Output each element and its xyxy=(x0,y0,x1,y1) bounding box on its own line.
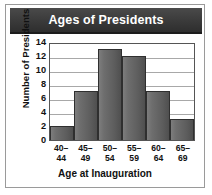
plot-area xyxy=(49,43,195,141)
bar xyxy=(50,126,74,140)
bar xyxy=(146,91,170,140)
y-axis-tick-labels: 02468101214 xyxy=(29,43,46,141)
x-axis-tick-label: 55–59 xyxy=(122,144,146,163)
x-axis-tick-label: 65–69 xyxy=(171,144,195,163)
y-axis-tick-label: 0 xyxy=(30,136,46,145)
y-axis-tick-label: 12 xyxy=(30,52,46,61)
bar-series xyxy=(50,44,194,140)
x-axis-tick-label-line: 69 xyxy=(171,154,195,164)
x-axis-tick-label: 45–49 xyxy=(73,144,97,163)
x-axis-tick-label-line: 59 xyxy=(122,154,146,164)
y-axis-tick-label: 4 xyxy=(30,108,46,117)
chart-card: Ages of Presidents Number of Presidents … xyxy=(5,4,205,188)
x-axis-tick-label: 40–44 xyxy=(49,144,73,163)
chart-title-bar: Ages of Presidents xyxy=(10,8,202,34)
bar xyxy=(74,91,98,140)
bar xyxy=(122,56,146,140)
x-axis-title: Age at Inauguration xyxy=(6,168,204,179)
x-axis-tick-label-line: 44 xyxy=(49,154,73,164)
chart-title: Ages of Presidents xyxy=(48,13,163,27)
x-axis-tick-label: 50–54 xyxy=(98,144,122,163)
x-axis-tick-labels: 40–4445–4950–5455–5960–6465–69 xyxy=(49,144,195,163)
x-axis-tick-label-line: 54 xyxy=(98,154,122,164)
plot-wrapper xyxy=(49,43,195,141)
bar xyxy=(170,119,194,140)
x-axis-tick-label-line: 64 xyxy=(146,154,170,164)
y-axis-tick-label: 2 xyxy=(30,122,46,131)
y-axis-tick-label: 10 xyxy=(30,66,46,75)
x-axis-tick-label-line: 49 xyxy=(73,154,97,164)
y-axis-tick-label: 6 xyxy=(30,94,46,103)
bar xyxy=(98,49,122,140)
y-axis-tick-label: 8 xyxy=(30,80,46,89)
y-axis-tick-label: 14 xyxy=(30,38,46,47)
x-axis-tick-label: 60–64 xyxy=(146,144,170,163)
